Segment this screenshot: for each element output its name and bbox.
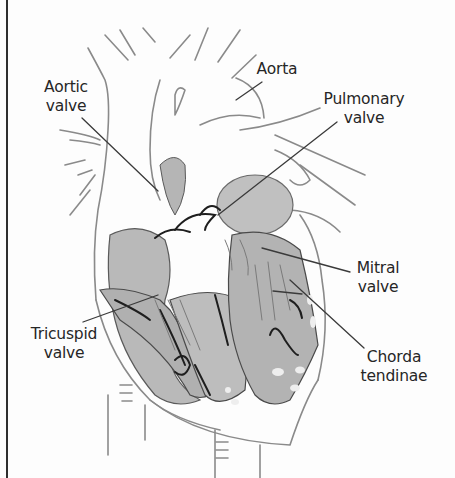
label-pulmonary-valve-line2: valve bbox=[318, 109, 410, 128]
label-aortic-valve: Aortic valve bbox=[38, 78, 94, 116]
label-aortic-valve-line1: Aortic bbox=[38, 78, 94, 97]
label-aorta-line1: Aorta bbox=[252, 60, 302, 79]
label-pulmonary-valve: Pulmonary valve bbox=[318, 90, 410, 128]
label-aortic-valve-line2: valve bbox=[38, 97, 94, 116]
label-chorda-tendinae: Chorda tendinae bbox=[356, 348, 432, 386]
label-tricuspid-valve-line2: valve bbox=[26, 344, 102, 363]
label-tricuspid-valve: Tricuspid valve bbox=[26, 325, 102, 363]
leader-aortic-valve bbox=[82, 118, 158, 191]
label-mitral-valve-line1: Mitral bbox=[350, 259, 406, 278]
label-tricuspid-valve-line1: Tricuspid bbox=[26, 325, 102, 344]
heart-illustration bbox=[0, 0, 455, 478]
label-chorda-tendinae-line1: Chorda bbox=[356, 348, 432, 367]
label-pulmonary-valve-line1: Pulmonary bbox=[318, 90, 410, 109]
label-aorta: Aorta bbox=[252, 60, 302, 79]
heart-diagram: Aortic valve Aorta Pulmonary valve Mitra… bbox=[0, 0, 455, 478]
label-mitral-valve: Mitral valve bbox=[350, 259, 406, 297]
label-mitral-valve-line2: valve bbox=[350, 278, 406, 297]
label-chorda-tendinae-line2: tendinae bbox=[356, 367, 432, 386]
